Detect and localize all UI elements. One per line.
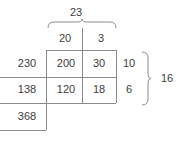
grid-cell-1-0: 120 (52, 84, 80, 95)
grid-cell-0-0: 200 (52, 58, 80, 69)
column-header-0: 20 (54, 33, 76, 44)
table-middle-border (0, 77, 116, 78)
row-label-1: 6 (120, 84, 138, 95)
column-header-1: 3 (90, 33, 112, 44)
table-top-border (46, 50, 116, 51)
column-divider-line (82, 28, 83, 103)
row-sum-1: 138 (12, 84, 42, 95)
row-sum-0: 230 (12, 58, 42, 69)
right-brace-icon (141, 51, 152, 106)
right-brace-label: 16 (157, 73, 177, 84)
grand-total: 368 (12, 111, 42, 122)
grid-cell-1-1: 18 (86, 84, 112, 95)
top-brace-label: 23 (66, 7, 86, 18)
area-model-diagram: 23 20 3 200 30 120 18 230 138 368 10 6 1… (0, 0, 184, 141)
table-left-border (46, 50, 47, 130)
table-right-border (116, 50, 117, 103)
row-label-0: 10 (120, 58, 138, 69)
total-bottom-border (0, 130, 46, 131)
table-bottom-border (0, 103, 116, 104)
grid-cell-0-1: 30 (86, 58, 112, 69)
